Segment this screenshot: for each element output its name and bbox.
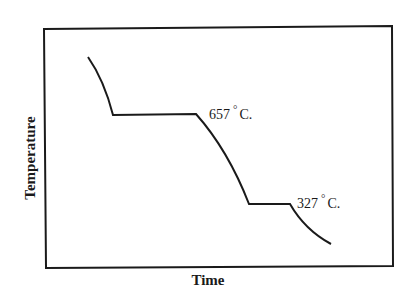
cooling-curve-figure: 657°C. 327°C. Temperature Time [0, 0, 404, 299]
degree-symbol: ° [233, 103, 237, 115]
chart-plot [0, 0, 404, 299]
degree-symbol: ° [321, 192, 325, 204]
y-axis-label: Temperature [22, 116, 39, 199]
arrest-annotation-657: 657°C. [209, 107, 252, 123]
arrest-327-unit: C. [327, 196, 340, 211]
arrest-annotation-327: 327°C. [297, 196, 340, 212]
cooling-curve-line [88, 57, 331, 244]
arrest-657-unit: C. [239, 107, 252, 122]
plot-frame [44, 26, 393, 268]
arrest-327-value: 327 [297, 196, 318, 211]
x-axis-label: Time [0, 272, 404, 289]
arrest-657-value: 657 [209, 107, 230, 122]
